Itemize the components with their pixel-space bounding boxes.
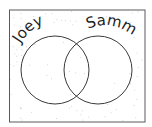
speckle [105,116,106,117]
speckle [22,120,23,121]
speckle [47,75,48,76]
speckle [14,25,15,26]
speckle [82,110,83,111]
speckle [16,49,17,50]
speckle [70,94,71,95]
speckle [54,22,55,23]
speckle [26,46,27,47]
speckle [80,114,81,115]
speckle [134,37,135,38]
speckle [45,13,46,14]
speckle [138,67,139,68]
speckle [122,120,123,121]
speckle [129,73,130,74]
speckle [134,89,135,90]
speckle [76,110,77,111]
speckle [111,112,112,113]
speckle [22,49,23,50]
speckle [52,13,53,14]
speckle [35,44,36,45]
speckle [134,105,135,106]
speckle [20,107,21,108]
speckle [29,65,30,66]
speckle [17,61,18,62]
speckle [116,109,117,110]
speckle [65,20,66,21]
speckle [69,71,70,72]
speckle [21,55,22,56]
speckle [80,57,81,58]
speckle [13,17,14,18]
speckle [88,117,89,118]
speckle [84,73,85,74]
speckle [106,16,107,17]
speckle [13,65,14,66]
speckle [71,106,72,107]
speckle [11,94,12,95]
joey-label: Joey [8,11,46,47]
speckle [69,108,70,109]
speckle [56,118,57,119]
speckle [142,60,143,61]
speckle [63,42,64,43]
speckle [75,21,76,22]
speckle [70,20,71,21]
sammy-circle [64,36,132,104]
speckle [31,112,32,113]
speckle [61,20,62,21]
venn-diagram: Joey Sammy [0,0,152,127]
svg-text:Joey: Joey [8,11,46,47]
speckle [21,13,22,14]
speckle [13,46,14,47]
speckle [47,64,48,65]
speckle [20,118,21,119]
speckle [107,104,108,105]
joey-circle [21,36,89,104]
speckle [14,53,15,54]
speckle [138,11,139,12]
speckle [21,18,22,19]
speckle [71,11,72,12]
speckle [137,76,138,77]
speckle [132,13,133,14]
speckle [75,72,76,73]
speckle [136,99,137,100]
speckle [21,108,22,109]
speckle [72,24,73,25]
speckle [137,53,138,54]
speckle [83,119,84,120]
speckle [56,19,57,20]
speckle [51,78,52,79]
speckle [114,83,115,84]
speckle [16,56,17,57]
speckle [135,117,136,118]
speckle [130,83,131,84]
